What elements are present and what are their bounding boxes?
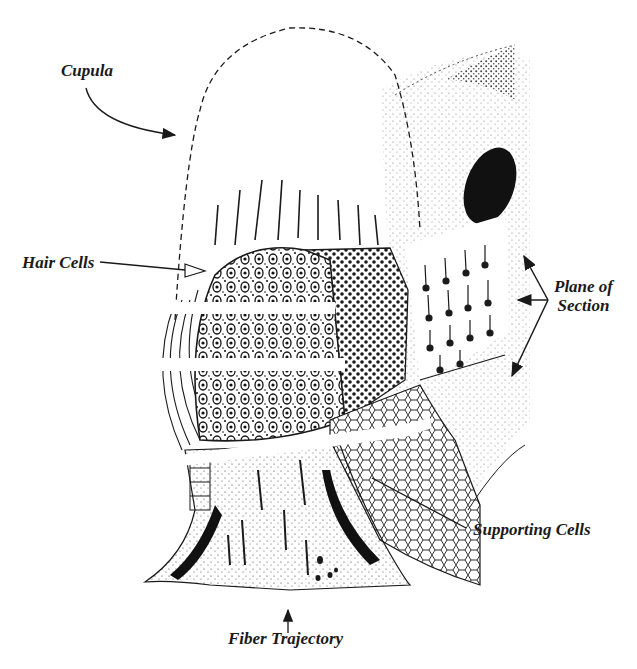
hair-cell-region [195,248,345,441]
plane-of-section-label: Plane of Section [554,278,613,315]
kinocilia [215,180,378,245]
neuromast-diagram: Cupula Hair Cells Plane of Section Suppo… [0,0,637,669]
plane-of-section-line1: Plane of [554,278,613,297]
plane-of-section-line2: Section [554,297,613,316]
hair-cells-arrow [100,262,205,277]
cupula-label: Cupula [61,62,113,81]
fiber-trajectory-label: Fiber Trajectory [228,630,343,649]
cupula-arrow [86,88,175,135]
supporting-cells-label: Supporting Cells [473,521,591,540]
hair-cells-label: Hair Cells [22,254,94,273]
neuromast-illustration [0,0,637,669]
